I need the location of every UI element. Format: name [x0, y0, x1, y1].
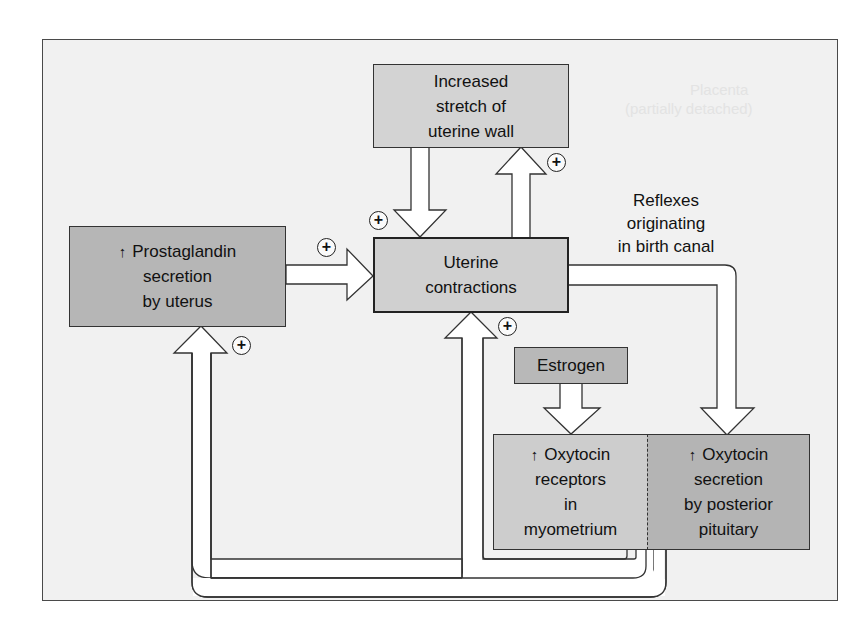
- positive-sign-icon: +: [317, 238, 336, 257]
- node-text: contractions: [425, 275, 517, 300]
- node-text-row: ↑Oxytocin: [531, 442, 611, 467]
- reflexes-label: Reflexes originating in birth canal: [586, 189, 746, 258]
- node-oxytocin-receptors: ↑Oxytocin receptors in myometrium: [493, 434, 647, 550]
- positive-sign-icon: +: [232, 336, 251, 355]
- label-line: in birth canal: [586, 235, 746, 258]
- up-arrow-icon: ↑: [689, 446, 697, 463]
- node-text: Oxytocin: [544, 445, 610, 464]
- node-text-row: ↑Oxytocin: [689, 442, 769, 467]
- node-prostaglandin-secretion: ↑Prostaglandin secretion by uterus: [69, 226, 286, 327]
- node-text: by posterior: [684, 492, 773, 517]
- positive-sign-icon: +: [369, 211, 388, 230]
- node-oxytocin-secretion: ↑Oxytocin secretion by posterior pituita…: [647, 434, 810, 550]
- positive-sign-icon: +: [547, 153, 566, 172]
- up-arrow-icon: ↑: [531, 446, 539, 463]
- node-text-row: ↑Prostaglandin: [119, 239, 236, 264]
- node-text: secretion: [694, 467, 763, 492]
- node-text: receptors: [535, 467, 606, 492]
- node-text: Oxytocin: [702, 445, 768, 464]
- up-arrow-icon: ↑: [119, 243, 127, 260]
- node-text: Estrogen: [537, 353, 605, 378]
- node-uterine-contractions: Uterine contractions: [373, 237, 569, 313]
- arrow-prostaglandin-to-contractions: [286, 249, 373, 300]
- node-stretch-of-uterine-wall: Increased stretch of uterine wall: [373, 64, 569, 148]
- node-text: secretion: [143, 264, 212, 289]
- arrow-estrogen-to-receptors: [544, 383, 600, 434]
- node-text: pituitary: [699, 517, 759, 542]
- arrow-contractions-to-stretch: [496, 147, 546, 238]
- node-text: Uterine: [444, 250, 499, 275]
- node-text: myometrium: [524, 517, 618, 542]
- positive-sign-icon: +: [498, 317, 517, 336]
- node-text: uterine wall: [428, 119, 514, 144]
- arrow-stretch-to-contractions: [394, 147, 446, 237]
- node-text: in: [564, 492, 577, 517]
- node-text: Increased: [434, 69, 509, 94]
- arrow-outer-loop-to-prostaglandin: [174, 326, 462, 578]
- label-line: originating: [586, 212, 746, 235]
- node-text: stretch of: [436, 94, 506, 119]
- label-line: Reflexes: [586, 189, 746, 212]
- node-text: Prostaglandin: [132, 242, 236, 261]
- node-estrogen: Estrogen: [514, 347, 628, 384]
- node-text: by uterus: [143, 289, 213, 314]
